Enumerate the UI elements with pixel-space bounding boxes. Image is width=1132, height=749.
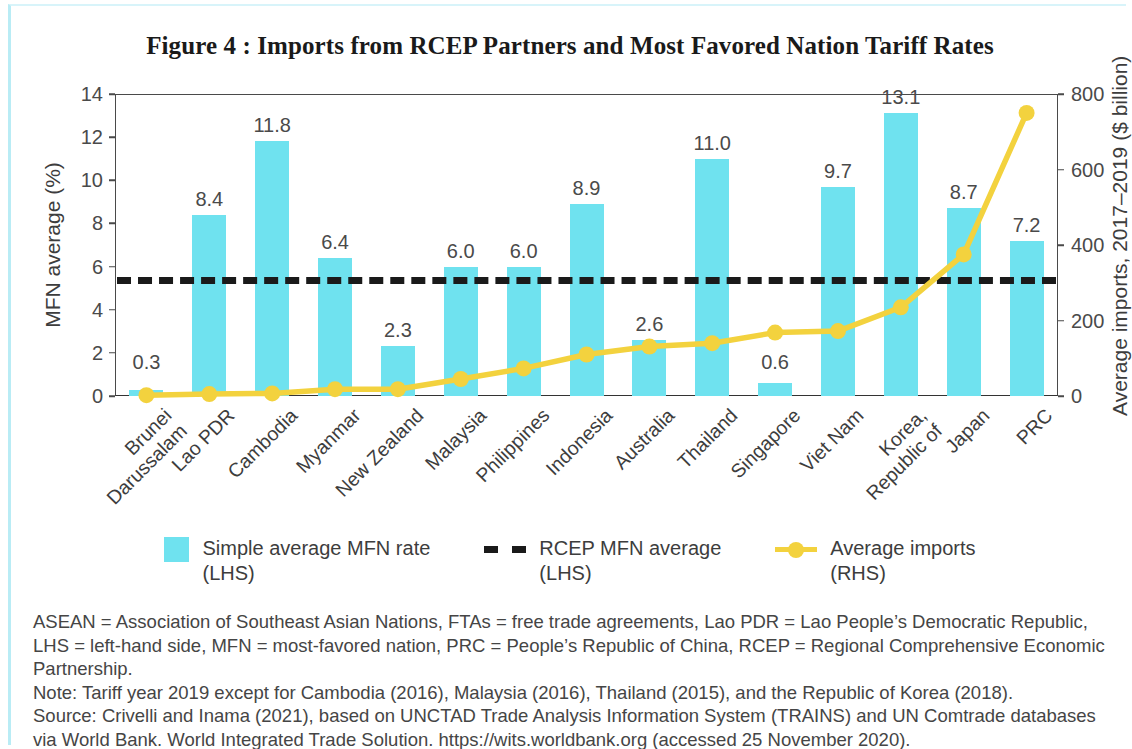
left-tick-label: 10 xyxy=(81,169,103,192)
bar xyxy=(758,383,792,396)
figure-notes: ASEAN = Association of Southeast Asian N… xyxy=(33,610,1118,749)
left-tick-label: 6 xyxy=(92,255,103,278)
x-axis-label-line: Australia xyxy=(610,404,679,473)
legend-line-2: (LHS) xyxy=(539,562,591,584)
left-tick-mark xyxy=(109,223,115,225)
x-axis-label: PRC xyxy=(1011,404,1056,449)
bar-value-label: 7.2 xyxy=(1013,214,1041,237)
legend-item-rcep-average: RCEP MFN average (LHS) xyxy=(484,536,721,586)
left-tick-label: 2 xyxy=(92,341,103,364)
bar-value-label: 9.7 xyxy=(824,160,852,183)
left-tick-label: 4 xyxy=(92,298,103,321)
bar-value-label: 6.0 xyxy=(510,240,538,263)
bar-swatch-icon xyxy=(164,537,189,562)
yellow-line-swatch-icon xyxy=(775,537,817,562)
figure-container: Figure 4 : Imports from RCEP Partners an… xyxy=(8,4,1126,745)
bar-value-label: 0.3 xyxy=(133,351,161,374)
right-tick-label: 800 xyxy=(1071,83,1104,106)
right-tick-label: 600 xyxy=(1071,158,1104,181)
left-axis-title: MFN average (%) xyxy=(39,94,67,396)
bar-value-label: 8.4 xyxy=(195,188,223,211)
page-title: Figure 4 : Imports from RCEP Partners an… xyxy=(11,32,1129,60)
legend-label-average-imports: Average imports (RHS) xyxy=(830,536,975,586)
right-tick-label: 200 xyxy=(1071,309,1104,332)
left-tick-label: 8 xyxy=(92,212,103,235)
bar-value-label: 8.9 xyxy=(573,177,601,200)
bar-value-label: 0.6 xyxy=(761,351,789,374)
x-axis-label-line: PRC xyxy=(1011,404,1056,449)
rcep-average-line xyxy=(117,277,1056,284)
bar xyxy=(821,187,855,396)
bar-value-label: 6.4 xyxy=(321,231,349,254)
bar xyxy=(947,208,981,396)
plot-area: 02468101214 0200400600800 0.38.411.86.42… xyxy=(115,94,1058,396)
bar xyxy=(507,267,541,396)
right-tick-label: 0 xyxy=(1071,385,1082,408)
right-tick-mark xyxy=(1058,169,1064,171)
legend-label-mfn-rate: Simple average MFN rate (LHS) xyxy=(202,536,430,586)
bar xyxy=(632,340,666,396)
left-tick-label: 0 xyxy=(92,385,103,408)
left-tick-mark xyxy=(109,93,115,95)
legend-label-rcep-average: RCEP MFN average (LHS) xyxy=(539,536,721,586)
bar xyxy=(192,215,226,396)
notes-source: Source: Crivelli and Inama (2021), based… xyxy=(33,704,1118,749)
left-tick-mark xyxy=(109,136,115,138)
x-axis-label: Japan xyxy=(940,404,993,457)
x-axis-label-line: Japan xyxy=(940,404,993,457)
bar-value-label: 2.3 xyxy=(384,319,412,342)
legend-item-mfn-rate: Simple average MFN rate (LHS) xyxy=(164,536,430,586)
notes-note: Note: Tariff year 2019 except for Cambod… xyxy=(33,681,1118,705)
right-tick-label: 400 xyxy=(1071,234,1104,257)
right-tick-mark xyxy=(1058,93,1064,95)
bar xyxy=(129,390,163,396)
bar-value-label: 8.7 xyxy=(950,181,978,204)
bar xyxy=(884,113,918,396)
left-tick-mark xyxy=(109,180,115,182)
notes-abbreviations: ASEAN = Association of Southeast Asian N… xyxy=(33,610,1118,681)
right-axis-title: Average imports, 2017–2019 ($ billion) xyxy=(1106,86,1132,416)
x-axis-label: Indonesia xyxy=(541,404,616,479)
chart-legend: Simple average MFN rate (LHS) RCEP MFN a… xyxy=(11,536,1129,586)
legend-item-average-imports: Average imports (RHS) xyxy=(775,536,975,586)
bar-value-label: 13.1 xyxy=(881,86,920,109)
right-tick-mark xyxy=(1058,244,1064,246)
bar-value-label: 2.6 xyxy=(635,313,663,336)
bar xyxy=(1010,241,1044,396)
right-tick-mark xyxy=(1058,320,1064,322)
left-tick-mark xyxy=(109,309,115,311)
x-axis-label-line: Indonesia xyxy=(541,404,616,479)
legend-line-1: Average imports xyxy=(830,537,975,559)
left-tick-mark xyxy=(109,395,115,397)
bar-value-label: 6.0 xyxy=(447,240,475,263)
bar xyxy=(381,346,415,396)
legend-line-2: (LHS) xyxy=(202,562,254,584)
bar-value-label: 11.8 xyxy=(253,114,290,137)
left-tick-mark xyxy=(109,266,115,268)
dashed-line-swatch-icon xyxy=(484,537,526,562)
left-tick-mark xyxy=(109,352,115,354)
bar xyxy=(255,141,289,396)
legend-line-2: (RHS) xyxy=(830,562,886,584)
bar-value-label: 11.0 xyxy=(693,132,730,155)
left-tick-label: 14 xyxy=(81,83,103,106)
right-tick-mark xyxy=(1058,395,1064,397)
legend-line-1: Simple average MFN rate xyxy=(202,537,430,559)
legend-line-1: RCEP MFN average xyxy=(539,537,721,559)
x-axis-label: Australia xyxy=(610,404,679,473)
left-tick-label: 12 xyxy=(81,126,103,149)
bar xyxy=(444,267,478,396)
bar xyxy=(570,204,604,396)
